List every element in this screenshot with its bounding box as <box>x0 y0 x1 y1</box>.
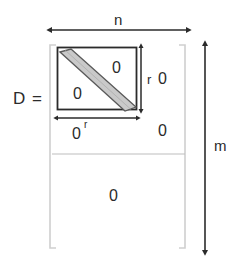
zero-entry-right-top: 0 <box>158 71 167 87</box>
left-matrix-bracket-icon <box>50 45 56 248</box>
right-matrix-bracket-icon <box>179 45 185 248</box>
matrix-name-label: D = <box>13 90 43 107</box>
diagram-graphics-layer <box>0 0 234 261</box>
zero-entry-right-bottom: 0 <box>158 123 167 139</box>
zero-entry-below-inner-block: 0 <box>72 126 81 142</box>
zero-entry-inner-bottom-left: 0 <box>73 86 82 102</box>
zero-entry-bottom-block: 0 <box>109 188 118 204</box>
dimension-n-label: n <box>114 12 122 27</box>
dimension-r-vertical-label: r <box>147 73 151 86</box>
dimension-r-horizontal-label: r <box>84 120 87 130</box>
matrix-diagram: D = n m r r 0 0 0 0 0 0 <box>0 0 234 261</box>
zero-entry-inner-top-right: 0 <box>112 60 121 76</box>
dimension-m-label: m <box>214 138 227 153</box>
